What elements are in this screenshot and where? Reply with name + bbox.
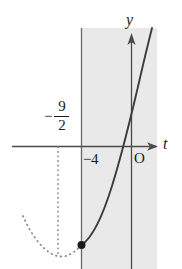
origin-label: O	[134, 151, 145, 166]
x-axis-tick-label-minus-four: −4	[83, 152, 98, 167]
vertex-label-numerator: 9	[56, 99, 68, 116]
vertex-label-denominator: 2	[56, 117, 68, 134]
math-figure-parabola-with-shaded-domain: t y O −4 − 9 2	[0, 0, 182, 269]
figure-canvas	[0, 0, 182, 269]
parabola-dotted-branch	[23, 216, 81, 257]
t-axis-label: t	[163, 136, 167, 152]
vertex-label-fraction: 9 2	[54, 99, 69, 134]
y-axis-label: y	[126, 12, 133, 28]
vertex-label-minus-sign: −	[44, 109, 52, 124]
vertex-y-value-label: − 9 2	[44, 99, 69, 134]
endpoint-dot	[78, 241, 86, 249]
